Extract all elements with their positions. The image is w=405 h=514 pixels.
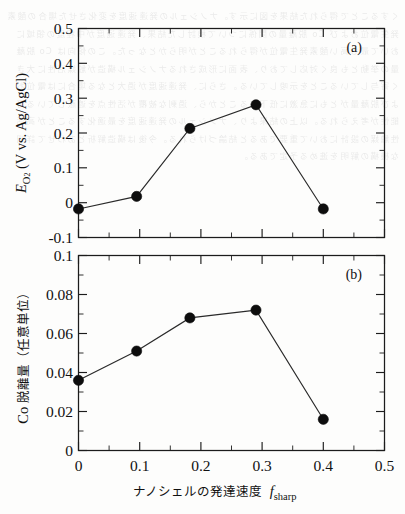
data-point bbox=[251, 305, 261, 315]
panel-a-y-axis-title: EO2 (V vs. Ag/AgCl) bbox=[13, 73, 32, 194]
panel-b-y-minor-ticks bbox=[79, 275, 385, 431]
x-tick-0: 0 bbox=[75, 457, 83, 474]
x-axis-title-symbol-sub: sharp bbox=[274, 491, 297, 502]
data-point bbox=[185, 313, 195, 323]
y-axis-b-jp: 脱離量（任意単位） bbox=[16, 286, 31, 403]
y-tick-b-3: 0.06 bbox=[46, 325, 73, 342]
y-tick-a-2: 0.1 bbox=[54, 159, 73, 176]
panel-b-x-ticks bbox=[79, 256, 385, 451]
panel-a: -0.1 0 0.1 0.2 0.3 0.4 0.5 EO2 (V vs. Ag… bbox=[13, 20, 385, 246]
x-tick-1: 0.1 bbox=[130, 457, 149, 474]
y-tick-a-5: 0.4 bbox=[54, 55, 74, 72]
panel-b: 0 0.02 0.04 0.06 0.08 0.1 0 0.1 0.2 0.3 … bbox=[15, 247, 394, 474]
y-tick-b-4: 0.08 bbox=[46, 286, 73, 303]
data-point bbox=[73, 204, 83, 214]
x-axis-title-jp: ナノシェルの発達速度 bbox=[133, 484, 262, 499]
panel-b-y-axis-title: Co 脱離量（任意単位） bbox=[15, 286, 31, 424]
panel-b-frame bbox=[79, 256, 385, 451]
y-tick-a-6: 0.5 bbox=[54, 20, 74, 37]
y-tick-b-5: 0.1 bbox=[54, 247, 73, 264]
x-tick-labels: 0 0.1 0.2 0.3 0.4 0.5 bbox=[75, 457, 395, 474]
y-tick-a-4: 0.3 bbox=[54, 90, 74, 107]
x-tick-2: 0.2 bbox=[191, 457, 210, 474]
panel-b-y-major-ticks bbox=[79, 256, 385, 451]
figure-root: くすることで得られた結果を図に示す。ナノシェルの発達速度を変化させた場合の酸素発… bbox=[0, 0, 405, 514]
panel-a-label: (a) bbox=[346, 40, 362, 56]
panel-a-y-major-ticks bbox=[79, 29, 385, 238]
x-tick-5: 0.5 bbox=[375, 457, 395, 474]
y-tick-a-3: 0.2 bbox=[54, 125, 73, 142]
y-tick-b-1: 0.02 bbox=[46, 403, 73, 420]
svg-text:Co 脱離量（任意単位）: Co 脱離量（任意単位） bbox=[15, 286, 31, 424]
data-point bbox=[132, 346, 142, 356]
svg-text:EO2 (V vs. Ag/AgCl): EO2 (V vs. Ag/AgCl) bbox=[13, 73, 32, 194]
y-tick-b-0: 0 bbox=[65, 442, 73, 459]
panel-b-y-tick-labels: 0 0.02 0.04 0.06 0.08 0.1 bbox=[46, 247, 73, 459]
y-axis-a-rest: (V vs. Ag/AgCl) bbox=[13, 73, 30, 169]
data-point bbox=[318, 204, 328, 214]
data-point bbox=[73, 375, 83, 385]
panel-a-data-line bbox=[79, 105, 324, 209]
data-point bbox=[185, 123, 195, 133]
panel-b-data-line bbox=[79, 310, 324, 419]
data-point bbox=[132, 191, 142, 201]
y-axis-b-prefix: Co bbox=[15, 407, 31, 424]
panel-b-label: (b) bbox=[346, 267, 363, 283]
y-axis-a-symbol: E bbox=[13, 184, 29, 194]
x-axis-title: ナノシェルの発達速度 fsharp bbox=[133, 483, 296, 502]
y-tick-b-2: 0.04 bbox=[46, 364, 73, 381]
x-tick-3: 0.3 bbox=[252, 457, 272, 474]
data-point bbox=[318, 414, 328, 424]
x-tick-4: 0.4 bbox=[314, 457, 334, 474]
y-tick-a-1: 0 bbox=[65, 194, 73, 211]
panel-a-y-minor-ticks bbox=[79, 46, 385, 220]
panel-a-frame bbox=[79, 29, 385, 238]
panel-a-x-ticks bbox=[79, 29, 385, 238]
panel-a-y-tick-labels: -0.1 0 0.1 0.2 0.3 0.4 0.5 bbox=[48, 20, 73, 246]
y-tick-a-0: -0.1 bbox=[48, 229, 73, 246]
data-point bbox=[251, 100, 261, 110]
chart-svg: -0.1 0 0.1 0.2 0.3 0.4 0.5 EO2 (V vs. Ag… bbox=[0, 0, 405, 514]
